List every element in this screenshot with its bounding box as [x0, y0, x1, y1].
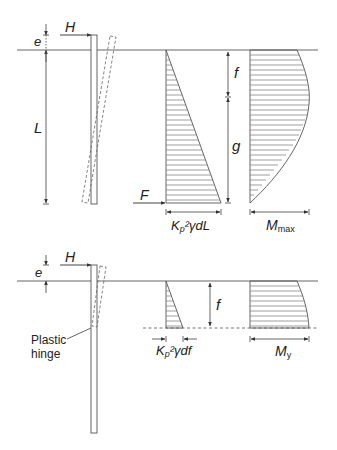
f-label-lower: f	[216, 296, 222, 313]
pressure-width-label: Kp²γdL	[171, 218, 210, 234]
f-dimension-lower: f	[210, 283, 222, 326]
hinge-label: hinge	[31, 347, 61, 361]
e-dimension: e	[34, 24, 49, 62]
pile	[91, 35, 97, 204]
pile-lateral-load-diagram: e H L F	[0, 0, 337, 450]
soil-pressure-diagram-lower: Kp²γdf	[152, 281, 197, 359]
soil-pressure-diagram: Kp²γdL	[166, 50, 221, 234]
l-label: L	[34, 119, 42, 136]
f-reaction-arrow: F	[133, 187, 165, 203]
yield-moment-diagram: My	[250, 281, 309, 360]
f-force-label: F	[140, 187, 150, 203]
plastic-hinge-callout: Plastic hinge	[31, 328, 91, 361]
e-label: e	[34, 34, 41, 49]
h-load-arrow: H	[60, 19, 91, 35]
f-g-dimension: f g	[225, 52, 241, 203]
pile-lower	[91, 265, 97, 433]
top-panel: e H L F	[17, 19, 318, 234]
h-label: H	[65, 19, 76, 35]
e-dimension-lower: e	[35, 255, 49, 293]
g-label: g	[232, 137, 241, 154]
e-label-lower: e	[35, 265, 42, 280]
moment-max-label: Mmax	[266, 217, 295, 234]
h-label-lower: H	[65, 249, 76, 265]
rotated-pile-outline	[82, 36, 116, 203]
pressure-width-label-lower: Kp²γdf	[156, 343, 193, 359]
yield-moment-label: My	[275, 343, 292, 360]
plastic-label: Plastic	[31, 333, 66, 347]
f-label: f	[234, 64, 240, 81]
l-dimension: L	[34, 52, 49, 204]
bottom-panel: e H Plastic hinge	[17, 249, 318, 433]
h-load-arrow-lower: H	[60, 249, 91, 265]
moment-diagram: Mmax	[250, 50, 309, 234]
